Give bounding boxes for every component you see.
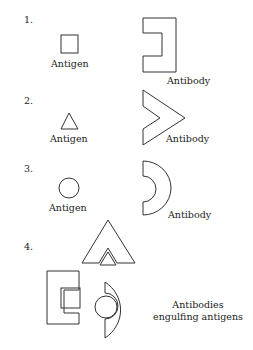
panel-3-antigen-label: Antigen — [49, 203, 87, 213]
diagram-shapes — [0, 0, 253, 350]
antibody-half-disc-engulfing — [105, 282, 121, 338]
panel-1-antibody-label: Antibody — [167, 76, 210, 86]
panel-3-number: 3. — [24, 164, 33, 174]
diagram: 1. Antigen Antibody 2. Antigen Antibody … — [0, 0, 253, 350]
antigen-square — [61, 35, 78, 53]
panel-2-antibody-label: Antibody — [166, 134, 209, 144]
antigen-circle — [59, 178, 79, 198]
panel-4-caption-line1: Antibodies — [148, 299, 248, 311]
antibody-square-engulfing — [47, 271, 79, 324]
panel-4-caption-line2: engulfing antigens — [148, 311, 248, 323]
panel-4-caption: Antibodies engulfing antigens — [148, 299, 248, 323]
antigen-circle-engulfed — [95, 296, 117, 318]
antigen-triangle-engulfed — [100, 252, 116, 265]
panel-3-antibody-label: Antibody — [168, 210, 211, 220]
panel-2-number: 2. — [24, 96, 33, 106]
antibody-half-disc-notch — [143, 161, 171, 215]
antibody-triangle-engulfing — [82, 220, 135, 263]
antigen-triangle — [61, 113, 78, 129]
panel-1-antigen-label: Antigen — [51, 59, 89, 69]
panel-4-number: 4. — [24, 242, 33, 252]
panel-1-number: 1. — [24, 15, 33, 25]
antibody-square-notch — [143, 18, 176, 72]
panel-2-antigen-label: Antigen — [50, 134, 88, 144]
